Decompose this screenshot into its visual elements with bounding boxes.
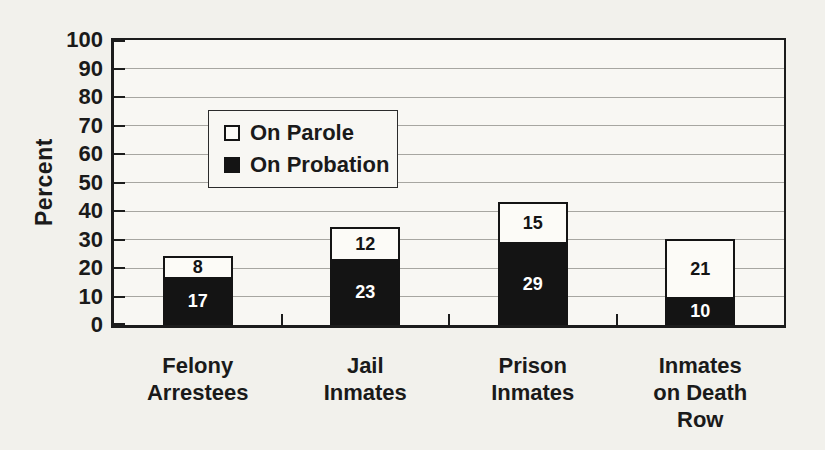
- bar-value-label: 12: [355, 235, 375, 253]
- y-tick-90: [114, 68, 125, 70]
- y-tick-40: [114, 210, 125, 212]
- bar-inmates-on-death-row: 2110: [665, 239, 735, 325]
- x-category-label-line: Inmates: [282, 379, 450, 406]
- x-category-label-line: Prison: [449, 352, 617, 379]
- bar-jail-inmates: 1223: [330, 227, 400, 325]
- y-tick-label-0: 0: [35, 313, 103, 337]
- y-tick-50: [114, 182, 125, 184]
- y-tick-label-20: 20: [35, 256, 103, 280]
- bar-value-label: 15: [523, 214, 543, 232]
- x-category-label-felony-arrestees: FelonyArrestees: [114, 352, 282, 406]
- white-square-icon: [224, 125, 240, 141]
- y-tick-label-40: 40: [35, 199, 103, 223]
- y-tick-80: [114, 96, 125, 98]
- bar-segment-on-parole-felony-arrestees: 8: [163, 256, 233, 279]
- y-tick-60: [114, 153, 125, 155]
- bar-segment-on-probation-felony-arrestees: 17: [163, 277, 233, 325]
- x-category-label-line: Felony: [114, 352, 282, 379]
- gridline-80: [114, 97, 784, 98]
- y-tick-30: [114, 239, 125, 241]
- x-tick-1: [281, 314, 283, 325]
- figure: Percent On ParoleOn Probation 8171223152…: [0, 0, 825, 450]
- bar-value-label: 23: [355, 283, 375, 301]
- x-category-label-jail-inmates: JailInmates: [282, 352, 450, 406]
- legend-item-label: On Probation: [250, 154, 389, 176]
- y-tick-label-10: 10: [35, 285, 103, 309]
- plot-area: On ParoleOn Probation 817122315292110: [111, 38, 786, 328]
- legend-item-label: On Parole: [250, 122, 354, 144]
- bar-value-label: 21: [690, 260, 710, 278]
- bar-segment-on-probation-inmates-on-death-row: 10: [665, 297, 735, 326]
- bar-value-label: 8: [193, 258, 203, 276]
- gridline-40: [114, 211, 784, 212]
- legend-item-on-probation: On Probation: [224, 154, 397, 176]
- bar-value-label: 29: [523, 275, 543, 293]
- y-tick-label-90: 90: [35, 57, 103, 81]
- x-tick-3: [616, 314, 618, 325]
- y-tick-label-100: 100: [35, 28, 103, 52]
- y-tick-100: [114, 40, 125, 42]
- x-tick-2: [448, 314, 450, 325]
- x-category-label-line: Row: [617, 406, 785, 433]
- bar-segment-on-probation-prison-inmates: 29: [498, 242, 568, 325]
- y-tick-label-30: 30: [35, 228, 103, 252]
- x-category-label-prison-inmates: PrisonInmates: [449, 352, 617, 406]
- bar-segment-on-probation-jail-inmates: 23: [330, 259, 400, 325]
- x-category-label-line: Jail: [282, 352, 450, 379]
- black-square-icon: [224, 157, 240, 173]
- legend: On ParoleOn Probation: [208, 110, 398, 188]
- x-category-label-line: Inmates: [617, 352, 785, 379]
- y-tick-20: [114, 267, 125, 269]
- y-tick-0: [114, 323, 125, 325]
- x-category-label-line: Arrestees: [114, 379, 282, 406]
- legend-item-on-parole: On Parole: [224, 122, 397, 144]
- y-tick-label-80: 80: [35, 85, 103, 109]
- bar-prison-inmates: 1529: [498, 202, 568, 325]
- y-tick-label-70: 70: [35, 114, 103, 138]
- y-tick-10: [114, 296, 125, 298]
- x-category-label-line: on Death: [617, 379, 785, 406]
- y-tick-label-50: 50: [35, 171, 103, 195]
- bar-segment-on-parole-prison-inmates: 15: [498, 202, 568, 245]
- bar-segment-on-parole-jail-inmates: 12: [330, 227, 400, 261]
- y-tick-label-60: 60: [35, 142, 103, 166]
- x-category-label-line: Inmates: [449, 379, 617, 406]
- y-tick-70: [114, 125, 125, 127]
- bar-value-label: 17: [188, 292, 208, 310]
- gridline-90: [114, 68, 784, 69]
- x-category-label-inmates-on-death-row: Inmateson DeathRow: [617, 352, 785, 433]
- bar-felony-arrestees: 817: [163, 256, 233, 325]
- bar-value-label: 10: [690, 302, 710, 320]
- bar-segment-on-parole-inmates-on-death-row: 21: [665, 239, 735, 299]
